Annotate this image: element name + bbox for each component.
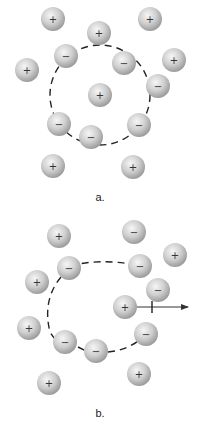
- minus-sign-icon: −: [92, 346, 100, 357]
- minus-sign-icon: −: [55, 119, 63, 130]
- positive-ion: +: [41, 7, 65, 31]
- minus-sign-icon: −: [61, 337, 69, 348]
- negative-ion: −: [79, 125, 103, 149]
- plus-sign-icon: +: [33, 277, 41, 288]
- minus-sign-icon: −: [136, 261, 144, 272]
- minus-sign-icon: −: [135, 120, 143, 131]
- negative-ion: −: [53, 330, 77, 354]
- plus-sign-icon: +: [25, 323, 33, 334]
- negative-ion: −: [146, 278, 170, 302]
- negative-ion: −: [146, 74, 170, 98]
- plus-sign-icon: +: [96, 90, 104, 101]
- plus-sign-icon: +: [129, 162, 137, 173]
- plus-sign-icon: +: [170, 55, 178, 66]
- negative-ion: −: [54, 44, 78, 68]
- plus-sign-icon: +: [146, 14, 154, 25]
- positive-ion: +: [113, 295, 137, 319]
- positive-ion: +: [47, 224, 71, 248]
- negative-ion: −: [128, 254, 152, 278]
- plus-sign-icon: +: [171, 250, 179, 261]
- minus-sign-icon: −: [130, 227, 138, 238]
- positive-ion: +: [15, 58, 39, 82]
- plus-sign-icon: +: [49, 161, 57, 172]
- positive-ion: +: [41, 154, 65, 178]
- plus-sign-icon: +: [45, 378, 53, 389]
- positive-ion: +: [25, 270, 49, 294]
- positive-ion: +: [17, 316, 41, 340]
- plus-sign-icon: +: [49, 14, 57, 25]
- positive-ion: +: [88, 83, 112, 107]
- negative-ion: −: [134, 322, 158, 346]
- plus-sign-icon: +: [55, 231, 63, 242]
- negative-ion: −: [112, 51, 136, 75]
- panel-b: +−+−−+−++−−−++ b.: [17, 220, 188, 419]
- minus-sign-icon: −: [120, 58, 128, 69]
- positive-ion: +: [163, 243, 187, 267]
- positive-ion: +: [121, 155, 145, 179]
- negative-ion: −: [122, 220, 146, 244]
- positive-ion: +: [162, 48, 186, 72]
- panel-a: +++−−++−+−−−++ a.: [15, 7, 186, 203]
- positive-ion: +: [138, 7, 162, 31]
- ion-diagram: +++−−++−+−−−++ a. +−+−−+−++−−−++ b.: [0, 0, 200, 426]
- minus-sign-icon: −: [87, 132, 95, 143]
- minus-sign-icon: −: [154, 285, 162, 296]
- positive-ion: +: [87, 21, 111, 45]
- negative-ion: −: [127, 113, 151, 137]
- plus-sign-icon: +: [135, 369, 143, 380]
- negative-ion: −: [47, 112, 71, 136]
- minus-sign-icon: −: [154, 81, 162, 92]
- minus-sign-icon: −: [65, 263, 73, 274]
- plus-sign-icon: +: [23, 65, 31, 76]
- panel-a-label: a.: [95, 191, 104, 203]
- minus-sign-icon: −: [62, 51, 70, 62]
- negative-ion: −: [84, 339, 108, 363]
- minus-sign-icon: −: [142, 329, 150, 340]
- panel-b-label: b.: [95, 407, 104, 419]
- positive-ion: +: [37, 371, 61, 395]
- plus-sign-icon: +: [95, 28, 103, 39]
- positive-ion: +: [127, 362, 151, 386]
- plus-sign-icon: +: [121, 302, 129, 313]
- negative-ion: −: [57, 256, 81, 280]
